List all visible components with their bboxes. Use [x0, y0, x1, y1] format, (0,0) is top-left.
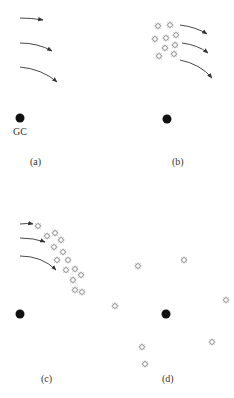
- star-cluster-marker: [152, 36, 159, 43]
- star-cluster-marker: [35, 223, 42, 230]
- galactic-center-dot: [162, 310, 171, 319]
- star-cluster-marker: [78, 272, 85, 279]
- star-cluster-marker: [65, 257, 72, 264]
- panel-c: [16, 223, 119, 319]
- star-cluster-marker: [51, 244, 58, 251]
- star-cluster-marker: [173, 32, 180, 39]
- panel-label-a: (a): [30, 156, 41, 167]
- star-cluster-marker: [70, 277, 77, 284]
- star-cluster-marker: [167, 22, 174, 29]
- panel-label-c: (c): [41, 373, 52, 384]
- panel-b: [152, 22, 212, 124]
- star-cluster-marker: [72, 266, 79, 273]
- orbit-arrow: [182, 43, 208, 53]
- star-cluster-marker: [142, 361, 149, 368]
- star-cluster-marker: [58, 237, 65, 244]
- figure-canvas: [0, 0, 234, 398]
- galactic-center-dot: [16, 310, 25, 319]
- orbit-arrow: [20, 224, 33, 225]
- star-cluster-marker: [181, 257, 188, 264]
- star-cluster-marker: [155, 23, 162, 30]
- star-cluster-marker: [223, 297, 230, 304]
- star-cluster-marker: [163, 35, 170, 42]
- star-cluster-marker: [135, 263, 142, 270]
- orbit-arrow: [180, 25, 207, 34]
- orbit-arrow: [20, 43, 52, 51]
- star-cluster-marker: [209, 339, 216, 346]
- galactic-center-dot: [16, 114, 25, 123]
- star-cluster-marker: [54, 257, 61, 264]
- star-cluster-marker: [52, 230, 59, 237]
- star-cluster-marker: [63, 267, 70, 274]
- panel-d: [135, 257, 230, 368]
- star-cluster-marker: [112, 303, 119, 310]
- star-cluster-marker: [60, 249, 67, 256]
- star-cluster-marker: [171, 51, 178, 58]
- orbit-arrow: [20, 18, 43, 20]
- star-cluster-marker: [139, 344, 146, 351]
- star-cluster-marker: [156, 53, 163, 60]
- panel-label-d: (d): [162, 373, 174, 384]
- panel-a: [16, 18, 58, 123]
- star-cluster-marker: [79, 289, 86, 296]
- orbit-arrow: [20, 238, 45, 242]
- orbit-arrow: [20, 67, 57, 82]
- panel-label-b: (b): [172, 156, 184, 167]
- orbit-arrow: [180, 60, 212, 78]
- galactic-center-dot: [163, 115, 172, 124]
- star-cluster-marker: [72, 287, 79, 294]
- star-cluster-marker: [44, 233, 51, 240]
- orbit-arrow: [20, 256, 56, 270]
- galactic-center-label: GC: [13, 126, 27, 137]
- star-cluster-marker: [172, 42, 179, 49]
- star-cluster-marker: [162, 45, 169, 52]
